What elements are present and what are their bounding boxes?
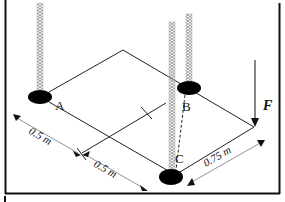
- dim-label-left-2: 0.5 m: [92, 157, 119, 180]
- force-arrow: [251, 60, 259, 127]
- rope-b: [186, 14, 192, 84]
- support-a: [28, 90, 52, 104]
- label-a: A: [55, 98, 65, 113]
- support-b: [177, 81, 201, 95]
- arrowhead-icon: [140, 185, 148, 191]
- rope-c: [169, 22, 175, 172]
- dim-label-left-1: 0.5 m: [27, 124, 54, 147]
- label-c: C: [175, 151, 184, 166]
- arrowhead-icon: [187, 178, 195, 186]
- arrowhead-icon: [257, 140, 265, 147]
- dim-label-right: 0.75 m: [201, 143, 233, 168]
- support-c: [159, 169, 183, 185]
- force-label: F: [262, 98, 273, 113]
- ropes: [37, 3, 192, 172]
- rope-a: [37, 3, 43, 91]
- label-b: B: [182, 99, 191, 114]
- plate-diagram: A B C F 0.5 m 0.5 m 0.75 m: [0, 0, 285, 202]
